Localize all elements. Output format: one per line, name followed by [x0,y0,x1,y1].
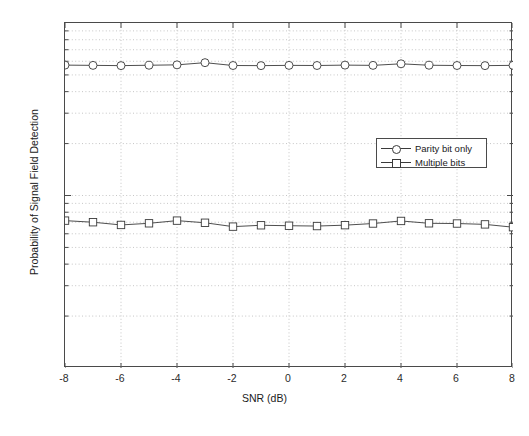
x-tick-label: 6 [453,372,459,384]
x-tick-label: 4 [397,372,403,384]
x-tick-label: -4 [171,372,180,384]
x-axis-title: SNR (dB) [0,392,529,404]
x-tick-label: 0 [285,372,291,384]
y-axis-title: Probability of Signal Field Detection [28,62,40,322]
x-tick-label: -8 [59,372,68,384]
x-tick-label: 2 [341,372,347,384]
legend-square-marker-icon [381,157,411,168]
chart-legend[interactable]: Parity bit only Multiple bits [376,138,487,168]
legend-label: Multiple bits [415,157,465,168]
plot-area [64,22,512,367]
legend-item-parity-bit-only[interactable]: Parity bit only [381,142,482,154]
figure-container: Probability of Signal Field Detection -8… [0,0,529,436]
legend-item-multiple-bits[interactable]: Multiple bits [381,156,482,168]
x-tick-label: -6 [115,372,124,384]
data-series-layer [65,23,513,368]
legend-label: Parity bit only [415,143,472,154]
x-tick-label: -2 [227,372,236,384]
legend-circle-marker-icon [381,143,411,154]
x-tick-label: 8 [509,372,515,384]
